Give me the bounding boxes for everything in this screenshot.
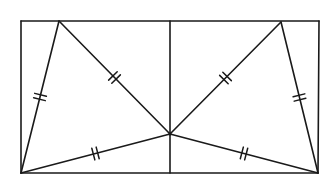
left-triangle-base-segment <box>21 134 170 173</box>
interior-point-dot <box>168 132 171 135</box>
right-triangle-side-segment <box>281 22 318 173</box>
rectangle-right-segment <box>318 21 319 173</box>
left-triangle-diagonal-segment <box>59 21 170 134</box>
right-triangle-base-segment <box>170 134 318 173</box>
left-triangle-side-segment <box>21 21 59 173</box>
diagram-edges <box>21 21 319 173</box>
right-triangle-diagonal-segment <box>170 22 281 134</box>
geometry-diagram <box>0 0 334 180</box>
